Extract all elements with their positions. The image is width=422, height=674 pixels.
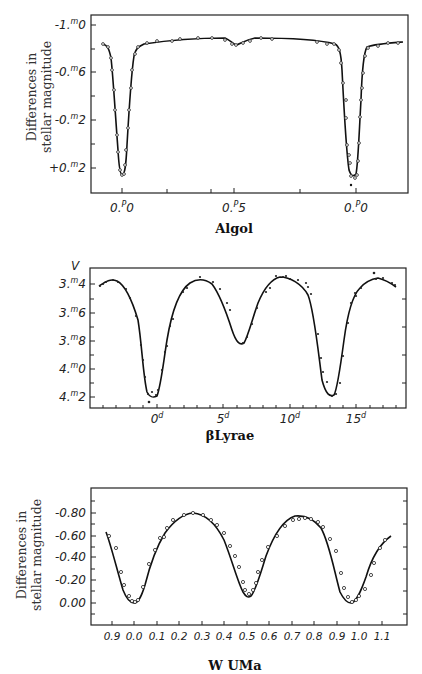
lyrae-v-label: V — [71, 259, 80, 273]
lyrae-ytick-label: 3.m8 — [59, 333, 86, 348]
wuma-xtick-labels: 0.9 0.0 0.1 0.2 0.3 0.4 0.5 0.6 0.7 0.8 … — [104, 630, 391, 642]
wuma-xtick-label: 0.7 — [284, 630, 301, 642]
wuma-xtick-label: 0.2 — [171, 630, 188, 642]
lyrae-xtick-label: 10d — [280, 411, 301, 426]
lyrae-xtick-label: 0d — [151, 411, 165, 426]
algol-ytick-label: +0.m2 — [49, 160, 86, 175]
wuma-plot-frame — [91, 488, 407, 625]
lyrae-title: βLyrae — [206, 428, 254, 443]
wuma-xtick-label: 1.1 — [374, 630, 391, 642]
wuma-ytick-label: -0.80 — [55, 506, 86, 520]
lyrae-observations — [99, 272, 396, 404]
lyrae-ytick-label: 4.m0 — [59, 361, 86, 376]
wuma-xtick-label: 0.0 — [126, 630, 143, 642]
wuma-observations — [107, 511, 386, 603]
algol-xtick-label: 0.P0 — [344, 200, 368, 215]
lyrae-ytick-label: 3.m4 — [59, 276, 86, 291]
wuma-xtick-label: 0.4 — [216, 630, 233, 642]
wuma-xtick-label: 0.9 — [329, 630, 346, 642]
wuma-xtick-label: 1.0 — [351, 630, 368, 642]
algol-ylabel-line2: stellar magnitude — [39, 41, 54, 153]
wuma-xtick-label: 0.8 — [306, 630, 323, 642]
algol-ylabel-line1: Differences in — [24, 53, 39, 142]
wuma-ytick-label: -0.40 — [55, 550, 86, 564]
wuma-ylabel-line2: stellar magnitude — [29, 499, 44, 611]
algol-outlier-point — [350, 184, 352, 186]
algol-xtick-label: 0.P5 — [222, 200, 246, 215]
algol-xtick-label: 0.P0 — [110, 200, 134, 215]
algol-ytick-label: -1.m0 — [55, 17, 87, 32]
wuma-light-curve — [106, 513, 391, 603]
algol-observations — [102, 37, 400, 180]
w-uma-chart: Differences in stellar magnitude -0.80 -… — [14, 488, 407, 673]
wuma-xtick-label: 0.5 — [239, 630, 256, 642]
wuma-xtick-label: 0.9 — [104, 630, 121, 642]
wuma-ytick-label: 0.00 — [59, 596, 86, 610]
algol-title: Algol — [214, 221, 253, 236]
wuma-title: W UMa — [207, 658, 262, 673]
algol-ytick-label: -0.m6 — [55, 64, 87, 79]
lyrae-ytick-label: 4.m2 — [59, 389, 86, 404]
beta-lyrae-chart: V 3.m4 3.m6 3.m8 4.m0 4.m2 0d 5d 10d 15d — [59, 259, 406, 443]
algol-y-ticks — [91, 25, 356, 193]
lyrae-xtick-label: 5d — [217, 411, 231, 426]
wuma-ticks — [91, 501, 407, 625]
algol-light-curve — [103, 38, 403, 176]
algol-ytick-label: -0.m2 — [55, 112, 86, 127]
algol-chart: Differences in stellar magnitude -1.m0 -… — [24, 15, 408, 236]
wuma-ylabel-line1: Differences in — [14, 511, 29, 600]
wuma-ytick-label: -0.60 — [55, 529, 86, 543]
wuma-xtick-label: 0.1 — [149, 630, 166, 642]
wuma-ytick-label: -0.20 — [55, 573, 86, 587]
wuma-xtick-label: 0.3 — [194, 630, 211, 642]
lyrae-ytick-label: 3.m6 — [59, 305, 86, 320]
wuma-xtick-label: 0.6 — [261, 630, 278, 642]
figure: Differences in stellar magnitude -1.m0 -… — [0, 0, 422, 674]
lyrae-xtick-label: 15d — [346, 411, 367, 426]
lyrae-ticks — [90, 284, 406, 408]
